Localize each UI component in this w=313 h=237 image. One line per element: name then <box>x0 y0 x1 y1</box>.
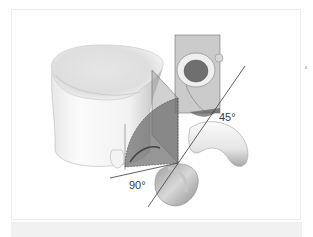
posterior-cutting-plane <box>175 35 223 117</box>
transverse-process <box>189 122 248 167</box>
angle-45-label: 45° <box>219 111 236 123</box>
vertebra-illustration: 90° 45° <box>0 0 313 237</box>
inferior-process <box>155 164 198 206</box>
angle-90-label: 90° <box>129 179 146 191</box>
